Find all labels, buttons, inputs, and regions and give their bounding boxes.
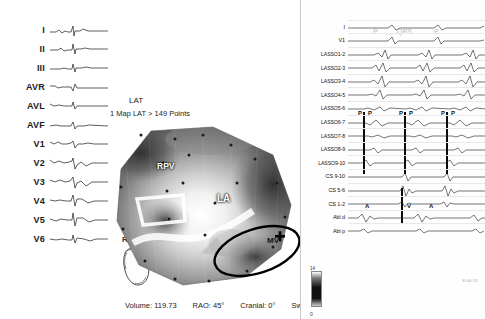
ecg-lead-label: I [0, 25, 50, 35]
egm-channel-trace [348, 196, 485, 211]
egm-channel-row[interactable]: Abl p [301, 224, 485, 238]
scale-bar-min-label: 0 [310, 311, 313, 317]
voltage-scale-bar[interactable] [311, 271, 322, 307]
egm-channel-row[interactable]: CS 5-6 [301, 183, 485, 197]
status-cranial: Cranial: 0° [240, 301, 275, 310]
egm-channel-row[interactable]: LASSO6-7 [301, 115, 485, 129]
ecg-lead-trace [50, 39, 110, 58]
ecg-lead-trace [50, 191, 110, 210]
ecg-lead-row[interactable]: AVR [0, 77, 110, 96]
ecg-lead-row[interactable]: I [0, 20, 110, 39]
egm-channel-label: Abl d [301, 214, 348, 220]
ecg-lead-label: V4 [0, 196, 50, 206]
egm-channel-row[interactable]: CS 1-2 [301, 197, 485, 211]
egm-channel-label: LASSO8-9 [301, 146, 348, 152]
ecg-lead-row[interactable]: II [0, 39, 110, 58]
egm-channel-trace [348, 223, 485, 238]
egm-channel-trace [348, 115, 485, 130]
ecg-lead-label: V1 [0, 139, 50, 149]
lat-map-3d-mesh[interactable]: RPV LA MV [105, 125, 300, 290]
ecg-lead-row[interactable]: V5 [0, 210, 110, 229]
egm-channel-row[interactable]: I [301, 20, 485, 34]
egm-channel-trace [348, 169, 485, 184]
ecg-lead-trace [50, 115, 110, 134]
ecg-lead-label: AVF [0, 120, 50, 130]
ecg-panel: I II III AVR AVL [0, 0, 110, 319]
egm-channel-trace [348, 47, 485, 62]
ecg-lead-label: AVR [0, 82, 50, 92]
ecg-lead-label: V2 [0, 158, 50, 168]
map-summary-label: 1 Map LAT > 149 Points [110, 109, 190, 118]
egm-channel-label: LASSO4-5 [301, 92, 348, 98]
egm-channel-label: CS 9-10 [301, 173, 348, 179]
egm-channel-label: LASSO9-10 [301, 160, 348, 166]
ecg-lead-row[interactable]: V2 [0, 153, 110, 172]
egm-channel-label: LASSO7-8 [301, 133, 348, 139]
egm-channel-label: LASSO3-4 [301, 78, 348, 84]
egm-channel-trace [348, 128, 485, 143]
egm-channel-row[interactable]: CS 9-10 [301, 170, 485, 184]
status-volume: Volume: 119.73 [125, 301, 177, 310]
ecg-lead-row[interactable]: V4 [0, 191, 110, 210]
ecg-lead-label: II [0, 44, 50, 54]
ecg-lead-label: V5 [0, 215, 50, 225]
ecg-lead-trace [50, 153, 110, 172]
map-type-label: LAT [129, 96, 143, 105]
egm-channel-trace [348, 33, 485, 48]
egm-channel-trace [348, 155, 485, 170]
egm-channel-row[interactable]: LASSO8-9 [301, 142, 485, 156]
egm-channel-row[interactable]: LASSO4-5 [301, 88, 485, 102]
ecg-lead-label: V6 [0, 234, 50, 244]
egm-channel-trace [348, 142, 485, 157]
egm-channel-trace [348, 74, 485, 89]
egm-channel-trace [348, 60, 485, 75]
ecg-lead-trace [50, 210, 110, 229]
ecg-lead-label: AVL [0, 101, 50, 111]
ecg-lead-trace [50, 77, 110, 96]
ecg-lead-trace [50, 20, 110, 39]
egm-channel-label: I [301, 24, 348, 30]
egm-channel-label: LASSO1-2 [301, 51, 348, 57]
ecg-lead-row[interactable]: V6 [0, 229, 110, 248]
ecg-lead-row[interactable]: III [0, 58, 110, 77]
egm-channel-row[interactable]: LASSO1-2 [301, 47, 485, 61]
egm-channel-row[interactable]: LASSO9-10 [301, 156, 485, 170]
ecg-lead-trace [50, 172, 110, 191]
ecg-lead-label: V3 [0, 177, 50, 187]
egm-channel-label: LASSO2-3 [301, 65, 348, 71]
catheter-mapping-workstation: I II III AVR AVL [0, 0, 485, 319]
ecg-lead-trace [50, 96, 110, 115]
ecg-lead-row[interactable]: V3 [0, 172, 110, 191]
ecg-lead-row[interactable]: AVF [0, 115, 110, 134]
egm-channel-row[interactable]: Abl d [301, 210, 485, 224]
egm-channel-label: LASSO5-6 [301, 105, 348, 111]
egm-channel-trace [348, 20, 485, 35]
ecg-lead-trace [50, 229, 110, 248]
egm-channel-row[interactable]: LASSO5-6 [301, 102, 485, 116]
ecg-lead-trace [50, 134, 110, 153]
ecg-lead-label: III [0, 63, 50, 73]
egm-channel-row[interactable]: LASSO7-8 [301, 129, 485, 143]
egm-channel-label: LASSO6-7 [301, 119, 348, 125]
egm-channel-row[interactable]: LASSO3-4 [301, 74, 485, 88]
egm-panel[interactable]: P QRS P P P P P P P A V A I V1 [300, 0, 485, 319]
egm-timestamp: 8:44:15 [463, 278, 478, 283]
egm-channel-label: V1 [301, 37, 348, 43]
ecg-lead-row[interactable]: AVL [0, 96, 110, 115]
status-rao: RAO: 45° [193, 301, 225, 310]
ecg-lead-row[interactable]: V1 [0, 134, 110, 153]
egm-channel-label: Abl p [301, 228, 348, 234]
egm-channel-label: CS 1-2 [301, 201, 348, 207]
ecg-lead-trace [50, 58, 110, 77]
egm-channel-trace [348, 210, 485, 225]
egm-channel-label: CS 5-6 [301, 187, 348, 193]
egm-channel-row[interactable]: LASSO2-3 [301, 61, 485, 75]
map-panel[interactable]: LAT 1 Map LAT > 149 Points RAO [105, 0, 300, 319]
egm-channel-trace [348, 87, 485, 102]
egm-channel-trace [348, 101, 485, 116]
egm-channel-row[interactable]: V1 [301, 34, 485, 48]
egm-channel-trace [348, 183, 485, 198]
